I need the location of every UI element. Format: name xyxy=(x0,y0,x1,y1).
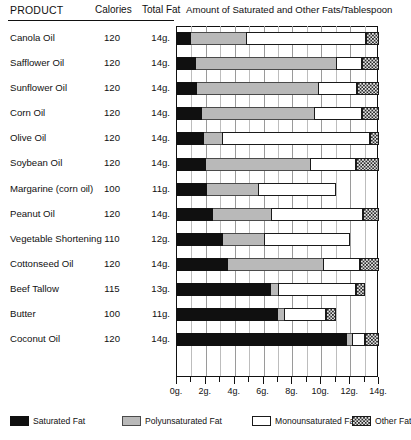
column-header-calories: Calories xyxy=(95,4,132,15)
total-fat-value: 11g. xyxy=(140,183,170,194)
legend-label: Saturated Fat xyxy=(33,416,85,426)
axis-tick-minor xyxy=(306,377,307,382)
segment-polyunsaturated xyxy=(206,158,310,171)
segment-saturated xyxy=(177,183,207,196)
axis-tick-major xyxy=(176,377,177,384)
axis-tick-minor xyxy=(219,377,220,382)
axis-tick-major xyxy=(234,377,235,384)
segment-monounsaturated xyxy=(314,107,362,120)
chart-legend: Saturated FatPolyunsaturated FatMonounsa… xyxy=(0,416,396,432)
total-fat-value: 14g. xyxy=(140,157,170,168)
axis-tick-major xyxy=(263,377,264,384)
product-name: Olive Oil xyxy=(10,132,46,143)
segment-monounsaturated xyxy=(336,57,362,70)
segment-saturated xyxy=(177,283,271,296)
total-fat-value: 14g. xyxy=(140,57,170,68)
product-name: Vegetable Shortening xyxy=(10,233,102,244)
axis-tick-major xyxy=(320,377,321,384)
axis-tick-label: 14g. xyxy=(369,386,387,396)
bar-beef-tallow xyxy=(177,283,365,296)
bar-margarine-corn-oil xyxy=(177,183,336,196)
segment-other xyxy=(362,107,379,120)
legend-swatch-other xyxy=(352,416,371,426)
axis-tick-major xyxy=(205,377,206,384)
segment-polyunsaturated xyxy=(191,32,246,45)
calories-value: 100 xyxy=(95,183,129,194)
segment-monounsaturated xyxy=(284,308,326,321)
bar-soybean-oil xyxy=(177,158,379,171)
axis-tick-minor xyxy=(277,377,278,382)
total-fat-value: 14g. xyxy=(140,208,170,219)
segment-monounsaturated xyxy=(246,32,366,45)
product-name: Beef Tallow xyxy=(10,283,59,294)
axis-tick-label: 0g. xyxy=(170,386,183,396)
bar-peanut-oil xyxy=(177,208,379,221)
bar-coconut-oil xyxy=(177,333,379,346)
total-fat-value: 12g. xyxy=(140,233,170,244)
total-fat-value: 14g. xyxy=(140,258,170,269)
product-name: Sunflower Oil xyxy=(10,82,67,93)
x-axis-ticks xyxy=(176,377,378,386)
legend-swatch-monounsaturated xyxy=(252,416,271,426)
header-divider xyxy=(8,20,174,21)
segment-polyunsaturated xyxy=(271,283,278,296)
calories-value: 120 xyxy=(95,107,129,118)
product-name: Butter xyxy=(10,308,36,319)
segment-saturated xyxy=(177,308,278,321)
bar-safflower-oil xyxy=(177,57,379,70)
segment-monounsaturated xyxy=(222,132,371,145)
legend-item-polyunsaturated: Polyunsaturated Fat xyxy=(122,416,222,426)
segment-polyunsaturated xyxy=(197,82,318,95)
column-header-total-fat: Total Fat xyxy=(142,4,180,15)
segment-other xyxy=(363,208,379,221)
segment-other xyxy=(357,82,379,95)
legend-item-saturated: Saturated Fat xyxy=(10,416,85,426)
segment-polyunsaturated xyxy=(213,208,271,221)
calories-value: 120 xyxy=(95,333,129,344)
segment-polyunsaturated xyxy=(204,132,221,145)
segment-monounsaturated xyxy=(278,283,356,296)
axis-tick-label: 2g. xyxy=(199,386,212,396)
chart-title: Amount of Saturated and Other Fats/Table… xyxy=(186,4,392,15)
total-fat-value: 14g. xyxy=(140,32,170,43)
segment-monounsaturated xyxy=(318,82,357,95)
segment-saturated xyxy=(177,132,204,145)
segment-other xyxy=(370,132,379,145)
legend-label: Other Fat xyxy=(375,416,411,426)
stacked-bars xyxy=(177,26,377,377)
total-fat-value: 14g. xyxy=(140,107,170,118)
axis-tick-major xyxy=(349,377,350,384)
total-fat-value: 14g. xyxy=(140,82,170,93)
segment-monounsaturated xyxy=(352,333,365,346)
segment-other xyxy=(356,283,365,296)
legend-label: Monounsaturated Fat xyxy=(275,416,357,426)
segment-other xyxy=(362,57,379,70)
segment-monounsaturated xyxy=(323,258,361,271)
calories-value: 100 xyxy=(95,308,129,319)
segment-other xyxy=(365,333,379,346)
calories-value: 120 xyxy=(95,157,129,168)
column-header-product: PRODUCT xyxy=(10,4,63,16)
calories-value: 120 xyxy=(95,258,129,269)
segment-monounsaturated xyxy=(258,183,336,196)
product-name: Margarine (corn oil) xyxy=(10,183,93,194)
segment-monounsaturated xyxy=(264,233,351,246)
axis-tick-minor xyxy=(364,377,365,382)
segment-monounsaturated xyxy=(310,158,356,171)
bar-cottonseed-oil xyxy=(177,258,379,271)
segment-saturated xyxy=(177,32,191,45)
axis-tick-label: 12g. xyxy=(340,386,358,396)
total-fat-value: 11g. xyxy=(140,308,170,319)
product-name: Soybean Oil xyxy=(10,157,62,168)
bar-olive-oil xyxy=(177,132,379,145)
product-name: Cottonseed Oil xyxy=(10,258,73,269)
calories-value: 120 xyxy=(95,132,129,143)
product-name: Corn Oil xyxy=(10,107,45,118)
total-fat-value: 14g. xyxy=(140,132,170,143)
segment-polyunsaturated xyxy=(207,183,258,196)
segment-other xyxy=(360,258,379,271)
segment-other xyxy=(326,308,336,321)
calories-value: 115 xyxy=(95,283,129,294)
segment-polyunsaturated xyxy=(202,107,315,120)
